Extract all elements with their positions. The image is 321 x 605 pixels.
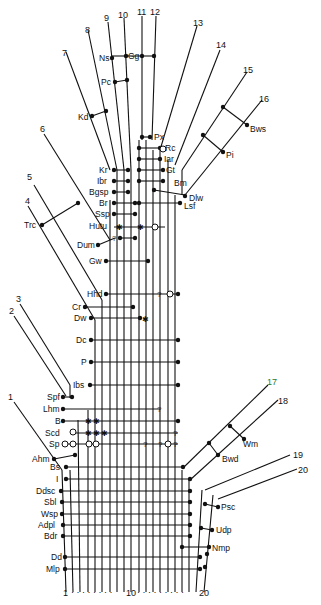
- lineage-6: 6: [40, 124, 45, 134]
- taxon-ns: Ns: [99, 53, 109, 63]
- taxon-p: P: [81, 357, 87, 367]
- svg-text:· · · · · · · ·: · · · · · · · ·: [71, 587, 112, 597]
- taxon-pi: Pi: [226, 150, 234, 160]
- svg-text:?: ?: [157, 405, 162, 414]
- taxon-udp: Udp: [216, 525, 232, 535]
- taxon-rc: Rc: [165, 143, 176, 153]
- taxon-lhm: Lhm: [43, 404, 60, 414]
- taxon-trc: Trc: [24, 220, 37, 230]
- taxon-kr: Kr: [99, 165, 108, 175]
- svg-text:✱: ✱: [142, 315, 149, 324]
- taxon-gw: Gw: [89, 256, 103, 266]
- taxon-dd: Dd: [51, 552, 62, 562]
- taxon-ibs: Ibs: [73, 380, 84, 390]
- taxon-dw: Dw: [74, 313, 87, 323]
- lineage-20: 20: [298, 465, 308, 475]
- axis-mid-label: 10: [126, 588, 136, 598]
- lineage-18: 18: [278, 396, 288, 406]
- taxon-gg: Gg: [128, 51, 140, 61]
- lineage-11: 11: [137, 7, 146, 17]
- rungs: [42, 56, 247, 569]
- lineage-16: 16: [259, 94, 269, 104]
- taxon-hutu: Hutu: [89, 221, 107, 231]
- taxon-cr: Cr: [72, 302, 81, 312]
- svg-text:✱: ✱: [85, 429, 92, 438]
- svg-text:?: ?: [157, 290, 162, 299]
- taxa-labels: Ns Gg Pc Kd Kr Ibr Bgsp Br Ssp Hutu Dum …: [24, 51, 266, 574]
- taxon-iar: Iar: [164, 154, 174, 164]
- branch-lines: [14, 16, 297, 499]
- lineage-5: 5: [27, 172, 32, 182]
- taxon-bws: Bws: [250, 124, 266, 134]
- taxon-bwd: Bwd: [222, 454, 239, 464]
- taxon-b: B: [55, 416, 61, 426]
- taxon-sbl: Sbl: [44, 497, 56, 507]
- lineage-13: 13: [193, 18, 203, 28]
- lineage-4: 4: [25, 196, 30, 206]
- taxon-br: Br: [99, 198, 108, 208]
- svg-text:✱: ✱: [101, 429, 108, 438]
- taxon-mlp: Mlp: [46, 564, 60, 574]
- axis-start-label: 1: [63, 588, 68, 598]
- taxon-ahm: Ahm: [32, 454, 49, 464]
- svg-text:?: ?: [173, 429, 178, 438]
- taxon-bdr: Bdr: [44, 531, 57, 541]
- lineage-1: 1: [8, 392, 13, 402]
- svg-text:· · · · · · · · ·: · · · · · · · · ·: [137, 587, 184, 597]
- taxon-scd: Scd: [45, 428, 60, 438]
- taxon-nmp: Nmp: [212, 543, 230, 553]
- lineage-15: 15: [243, 65, 253, 75]
- character-dots: [40, 54, 249, 571]
- taxon-wsp: Wsp: [41, 509, 58, 519]
- taxon-hhd: Hhd: [87, 289, 103, 299]
- svg-text:✱: ✱: [85, 417, 92, 426]
- svg-text:✱: ✱: [93, 429, 100, 438]
- lineage-14: 14: [216, 40, 226, 50]
- svg-text:✱: ✱: [137, 223, 144, 232]
- svg-text:?: ?: [143, 440, 148, 449]
- lineage-7: 7: [62, 48, 67, 58]
- taxon-ibr: Ibr: [97, 176, 107, 186]
- lineage-3: 3: [16, 294, 21, 304]
- bottom-axis: 1 · · · · · · · · 10 · · · · · · · · · 2…: [63, 587, 209, 598]
- taxon-dum: Dum: [77, 240, 95, 250]
- lineage-17: 17: [267, 377, 277, 387]
- taxon-ddsc: Ddsc: [36, 486, 56, 496]
- taxon-i: I: [56, 474, 58, 484]
- taxon-kd: Kd: [78, 112, 89, 122]
- taxon-px: Px: [154, 132, 165, 142]
- lineage-19: 19: [293, 450, 303, 460]
- lineage-8: 8: [85, 25, 90, 35]
- lineage-10: 10: [118, 10, 128, 20]
- svg-text:?: ?: [173, 440, 178, 449]
- lineage-2: 2: [9, 306, 14, 316]
- svg-text:✱: ✱: [93, 417, 100, 426]
- cladogram: ✱ ✱ ✱ ✱ ✱ ✱ ✱ ✱ ? ? ? ? ? ? ? 1 2 3 4 5 …: [0, 0, 321, 605]
- lineage-9: 9: [104, 13, 109, 23]
- taxon-dc: Dc: [76, 335, 87, 345]
- svg-text:?: ?: [158, 440, 163, 449]
- taxon-psc: Psc: [221, 502, 236, 512]
- taxon-bs: Bs: [50, 462, 60, 472]
- taxon-lsf: Lsf: [184, 201, 196, 211]
- taxon-bm: Bm: [174, 178, 187, 188]
- taxon-bgsp: Bgsp: [89, 187, 109, 197]
- taxon-wm: Wm: [243, 439, 258, 449]
- svg-text:?: ?: [112, 234, 117, 243]
- taxon-sp: Sp: [49, 439, 60, 449]
- taxon-gt: Gt: [166, 165, 176, 175]
- axis-end-label: 20: [199, 588, 209, 598]
- taxon-ssp: Ssp: [95, 209, 110, 219]
- svg-text:✱: ✱: [116, 223, 123, 232]
- taxon-spf: Spf: [47, 392, 60, 402]
- taxon-adpl: Adpl: [38, 520, 55, 530]
- taxon-pc: Pc: [101, 77, 112, 87]
- lineage-12: 12: [150, 7, 160, 17]
